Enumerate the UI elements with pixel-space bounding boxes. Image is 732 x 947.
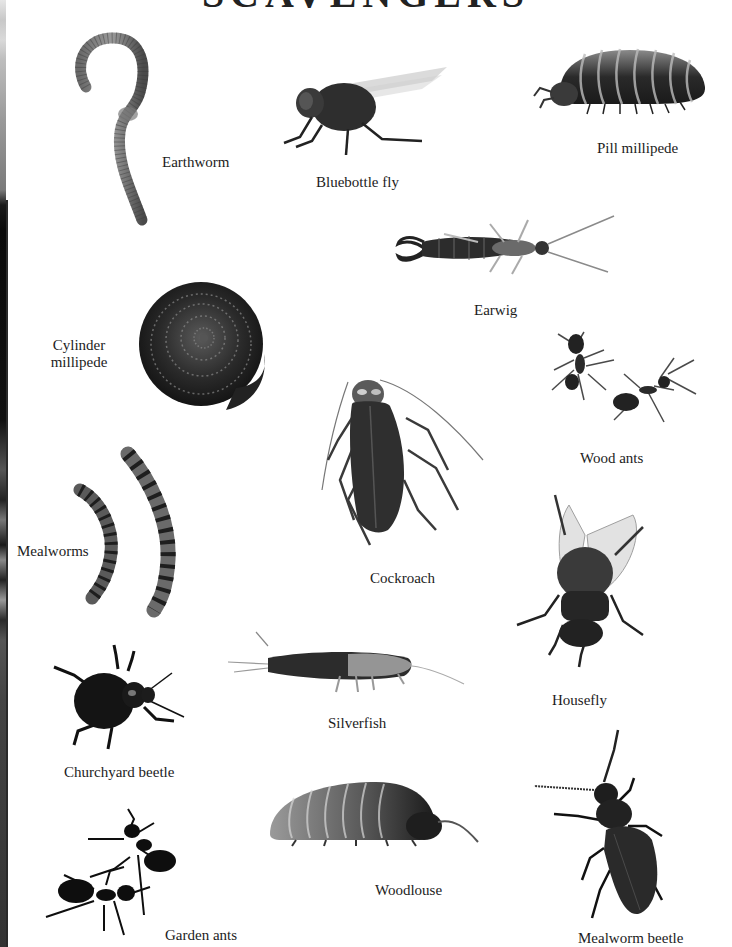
bluebottle-fly-label: Bluebottle fly [316, 174, 399, 191]
cylinder-millipede-label-line-2: millipede [44, 354, 114, 371]
mealworms-label: Mealworms [17, 543, 89, 560]
silverfish-label: Silverfish [328, 715, 386, 732]
cockroach-illustration [318, 370, 488, 550]
cockroach-label: Cockroach [370, 570, 435, 587]
garden-ants-label: Garden ants [165, 927, 237, 944]
cylinder-millipede-label: Cylinder millipede [44, 337, 114, 371]
page-title: SCAVENGERS [0, 0, 732, 14]
cylinder-millipede-label-line-1: Cylinder [44, 337, 114, 354]
woodlouse-illustration [266, 778, 481, 853]
woodlouse-label: Woodlouse [375, 882, 442, 899]
churchyard-beetle-label: Churchyard beetle [64, 764, 174, 781]
pill-millipede-label: Pill millipede [597, 140, 678, 157]
cylinder-millipede-illustration [136, 278, 271, 418]
page-gutter-line [6, 200, 8, 947]
housefly-label: Housefly [552, 692, 607, 709]
churchyard-beetle-illustration [48, 645, 188, 750]
earwig-label: Earwig [474, 302, 517, 319]
silverfish-illustration [228, 632, 468, 697]
garden-ants-illustration [44, 805, 194, 940]
mealworm-beetle-label: Mealworm beetle [578, 930, 683, 947]
earwig-illustration [394, 212, 619, 287]
mealworms-illustration [70, 450, 190, 620]
book-page: SCAVENGERS Earthworm Bluebottle fly [0, 0, 732, 947]
wood-ants-label: Wood ants [580, 450, 643, 467]
housefly-illustration [515, 495, 650, 675]
bluebottle-fly-illustration [282, 55, 452, 160]
earthworm-illustration [70, 32, 170, 227]
mealworm-beetle-illustration [534, 730, 694, 920]
wood-ants-illustration [544, 330, 704, 430]
earthworm-label: Earthworm [162, 154, 229, 171]
pill-millipede-illustration [530, 42, 710, 127]
